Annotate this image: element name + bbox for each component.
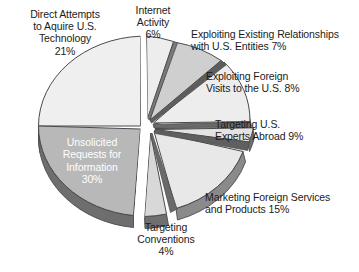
slice-label-direct-attempts: Direct Attempts to Aquire U.S. Technolog… [6, 8, 124, 57]
slice-label-relationships: Exploiting Existing Relationships with U… [191, 28, 359, 52]
slice-label-internet-activity: Internet Activity 6% [112, 4, 194, 41]
slice-label-unsolicited: Unsolicited Requests for Information 30% [43, 136, 141, 186]
slice-label-foreign-visits: Exploiting Foreign Visits to the U.S. 8% [206, 70, 356, 94]
slice-label-marketing: Marketing Foreign Services and Products … [205, 191, 359, 215]
slice-label-experts-abroad: Targeting U.S. Experts Abroad 9% [215, 118, 357, 142]
slice-label-conventions: Targeting Conventions 4% [118, 221, 214, 258]
pie-chart: Direct Attempts to Aquire U.S. Technolog… [0, 0, 359, 272]
